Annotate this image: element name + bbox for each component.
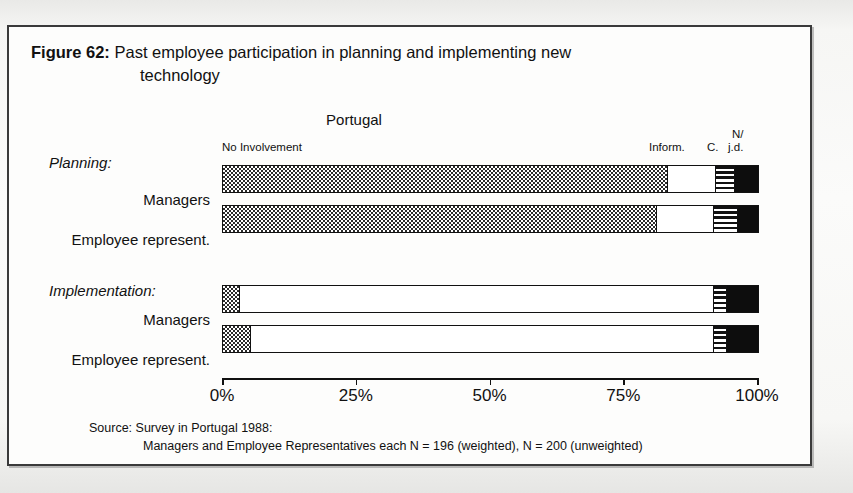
x-axis-tick-label: 75% bbox=[606, 386, 640, 406]
row-label-planning-managers: Managers bbox=[14, 191, 210, 208]
x-axis-tick bbox=[356, 378, 358, 385]
bar-segment bbox=[726, 326, 758, 352]
x-axis-tick-label: 100% bbox=[735, 386, 778, 406]
group-label-planning: Planning: bbox=[49, 154, 112, 171]
bar-segment bbox=[713, 206, 737, 232]
figure-frame: Figure 62: Past employee participation i… bbox=[7, 25, 812, 466]
legend-label-njd-top: N/ bbox=[732, 128, 744, 140]
bar-segment bbox=[223, 166, 667, 192]
x-axis-tick bbox=[222, 378, 224, 385]
bar-segment bbox=[223, 206, 656, 232]
legend-label-njd-bottom: j.d. bbox=[728, 141, 743, 153]
bar-segment bbox=[223, 286, 239, 312]
row-label-implementation-employee-represent: Employee represent. bbox=[14, 351, 210, 368]
x-axis-tick bbox=[757, 378, 759, 385]
source-note-line-2: Managers and Employee Representatives ea… bbox=[143, 437, 643, 455]
bar-segment bbox=[715, 166, 734, 192]
chart-title: Portugal bbox=[9, 111, 699, 128]
row-label-planning-employee-represent: Employee represent. bbox=[14, 231, 210, 248]
legend-label-no-involvement: No Involvement bbox=[222, 141, 302, 153]
bar-segment bbox=[239, 286, 712, 312]
bar-row bbox=[222, 165, 759, 193]
source-note-line-1: Source: Survey in Portugal 1988: bbox=[89, 419, 272, 437]
chart-area: Portugal No Involvement Inform. C. N/ j.… bbox=[9, 27, 810, 464]
x-axis-tick bbox=[490, 378, 492, 385]
legend-label-consult: C. bbox=[707, 141, 719, 153]
x-axis-tick-label: 50% bbox=[472, 386, 506, 406]
bar-row bbox=[222, 285, 759, 313]
bar-segment bbox=[250, 326, 713, 352]
bar-row bbox=[222, 325, 759, 353]
bar-segment bbox=[656, 206, 712, 232]
bar-segment bbox=[713, 326, 726, 352]
x-axis-tick-label: 25% bbox=[339, 386, 373, 406]
row-label-implementation-managers: Managers bbox=[14, 311, 210, 328]
bar-segment bbox=[734, 166, 758, 192]
bar-row bbox=[222, 205, 759, 233]
bar-segment bbox=[713, 286, 726, 312]
bar-segment bbox=[737, 206, 758, 232]
group-label-implementation: Implementation: bbox=[49, 282, 156, 299]
x-axis-tick-label: 0% bbox=[210, 386, 235, 406]
legend-label-inform: Inform. bbox=[649, 141, 685, 153]
bar-segment bbox=[223, 326, 250, 352]
bar-segment bbox=[726, 286, 758, 312]
bar-segment bbox=[667, 166, 715, 192]
x-axis-tick bbox=[623, 378, 625, 385]
